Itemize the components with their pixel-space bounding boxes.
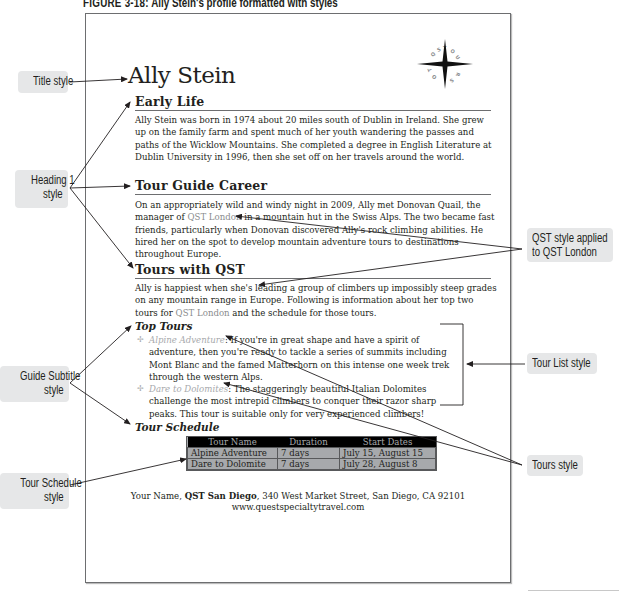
- table-row: Alpine Adventure 7 days July 15, August …: [188, 448, 436, 459]
- callout-tour-list-style: Tour List style: [527, 353, 597, 374]
- callout-text: Title style: [33, 74, 73, 88]
- text: and the schedule for those tours.: [230, 308, 377, 318]
- tour-name: Alpine Adventure: [149, 335, 225, 345]
- early-life-body: Ally Stein was born in 1974 about 20 mil…: [135, 114, 497, 163]
- callout-text: to QST London: [532, 245, 597, 259]
- callout-text: Tour Schedule: [20, 476, 81, 490]
- qst-london-text: QST London: [187, 212, 241, 222]
- tour-schedule-table: Tour Name Duration Start Dates Alpine Ad…: [187, 437, 436, 470]
- callout-text: style: [43, 187, 63, 201]
- callout-guide-subtitle-style: Guide Subtitle style: [0, 366, 69, 402]
- compass-star-icon: Q S T O U R S O T: [415, 37, 475, 91]
- document-footer: Your Name, QST San Diego, 340 West Marke…: [85, 491, 511, 513]
- svg-text:S: S: [436, 46, 442, 53]
- footer-name: Your Name: [131, 491, 179, 501]
- heading-tour-guide-career: Tour Guide Career: [135, 178, 491, 195]
- callout-text: Tours style: [532, 458, 578, 472]
- callout-tour-schedule-style: Tour Schedule style: [0, 473, 69, 509]
- qst-london-text: QST London: [176, 308, 230, 318]
- callout-text: Guide Subtitle: [20, 369, 80, 383]
- footer-website: www.questspecialtytravel.com: [85, 502, 511, 513]
- table-cell: Dare to Dolomite: [188, 459, 278, 470]
- footer-address-line: Your Name, QST San Diego, 340 West Marke…: [85, 491, 511, 502]
- callout-heading1-style: Heading 1 style: [15, 170, 68, 208]
- column-header: Tour Name: [188, 437, 278, 448]
- svg-text:S: S: [448, 77, 455, 84]
- svg-text:O: O: [450, 47, 456, 54]
- compass-bullet-icon: ✢: [137, 383, 144, 395]
- callout-text: style: [44, 490, 64, 504]
- svg-text:O: O: [431, 73, 438, 80]
- table-cell: July 28, August 8: [340, 459, 436, 470]
- table-cell: 7 days: [278, 448, 340, 459]
- svg-text:T: T: [426, 67, 433, 73]
- heading-tours-with-qst: Tours with QST: [135, 262, 491, 279]
- callout-text: style: [44, 383, 64, 397]
- table-row: Dare to Dolomite 7 days July 28, August …: [188, 459, 436, 470]
- svg-text:U: U: [454, 54, 461, 61]
- compass-bullet-icon: ✢: [137, 334, 144, 346]
- figure-label: FIGURE 3-18:: [83, 0, 149, 10]
- table-cell: Alpine Adventure: [188, 448, 278, 459]
- tour-guide-career-body: On an appropriately wild and windy night…: [135, 199, 497, 260]
- heading-tour-schedule: Tour Schedule: [135, 421, 219, 433]
- svg-text:Q: Q: [429, 51, 436, 58]
- divider: [528, 590, 619, 591]
- callout-text: Heading 1: [31, 173, 75, 187]
- callout-qst-style: QST style applied to QST London: [527, 228, 613, 262]
- callout-text: QST style applied: [532, 231, 608, 245]
- callout-text: Tour List style: [532, 356, 591, 370]
- callout-title-style: Title style: [18, 71, 68, 93]
- figure-caption-text: Ally Stein's profile formatted with styl…: [151, 0, 338, 10]
- heading-top-tours: Top Tours: [135, 320, 192, 332]
- table-header-row: Tour Name Duration Start Dates: [188, 437, 436, 448]
- column-header: Start Dates: [340, 437, 436, 448]
- document-title: Ally Stein: [128, 62, 235, 88]
- figure-caption: FIGURE 3-18: Ally Stein's profile format…: [83, 0, 338, 10]
- footer-address: , 340 West Market Street, San Diego, CA …: [257, 491, 465, 501]
- tour-list: ✢ Alpine Adventure: If you're in great s…: [137, 334, 465, 420]
- list-item: ✢ Dare to Dolomites: The staggeringly be…: [137, 383, 465, 420]
- column-header: Duration: [278, 437, 340, 448]
- footer-company: QST San Diego: [185, 491, 257, 501]
- table-cell: July 15, August 15: [340, 448, 436, 459]
- svg-text:R: R: [455, 72, 462, 78]
- list-item: ✢ Alpine Adventure: If you're in great s…: [137, 334, 465, 383]
- tours-with-qst-body: Ally is happiest when she's leading a gr…: [135, 282, 497, 319]
- table-cell: 7 days: [278, 459, 340, 470]
- callout-tours-style: Tours style: [527, 455, 583, 476]
- tour-name: Dare to Dolomites: [149, 384, 228, 394]
- heading-early-life: Early Life: [135, 94, 491, 111]
